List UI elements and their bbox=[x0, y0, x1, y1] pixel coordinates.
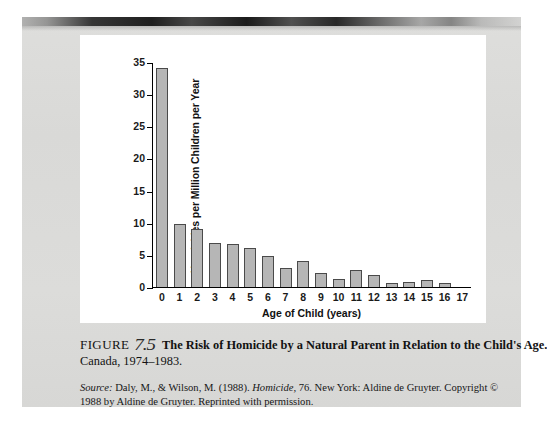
bar-age-16 bbox=[439, 283, 451, 287]
bar-age-15 bbox=[421, 280, 433, 287]
bar-slot-age-10: 10 bbox=[330, 62, 348, 287]
x-tick-label-2: 2 bbox=[194, 291, 200, 303]
bar-slot-age-4: 4 bbox=[224, 62, 242, 287]
y-tick-label: 15 bbox=[133, 185, 145, 197]
bar-age-7 bbox=[280, 268, 292, 287]
x-axis-line bbox=[152, 287, 471, 288]
x-tick-label-0: 0 bbox=[159, 291, 165, 303]
y-tick-label: 20 bbox=[133, 152, 145, 164]
bar-slot-age-11: 11 bbox=[347, 62, 365, 287]
x-tick-label-16: 16 bbox=[439, 291, 451, 303]
y-tick-label: 30 bbox=[133, 88, 145, 100]
y-tick-label: 0 bbox=[139, 281, 145, 293]
bar-slot-age-5: 5 bbox=[241, 62, 259, 287]
bar-age-8 bbox=[297, 261, 309, 287]
x-tick-label-15: 15 bbox=[421, 291, 433, 303]
bar-slot-age-9: 9 bbox=[312, 62, 330, 287]
bar-age-10 bbox=[333, 279, 345, 287]
bar-age-6 bbox=[262, 256, 274, 287]
x-tick-label-13: 13 bbox=[386, 291, 398, 303]
figure-title: The Risk of Homicide by a Natural Parent… bbox=[162, 338, 547, 352]
bar-slot-age-15: 15 bbox=[418, 62, 436, 287]
bar-age-9 bbox=[315, 273, 327, 287]
y-tick-label: 35 bbox=[133, 56, 145, 68]
figure-panel: Homicides per Million Children per Year … bbox=[80, 35, 486, 323]
bar-slot-age-17: 17 bbox=[453, 62, 471, 287]
x-tick-label-10: 10 bbox=[333, 291, 345, 303]
bar-slot-age-8: 8 bbox=[294, 62, 312, 287]
bar-age-14 bbox=[403, 282, 415, 287]
bar-slot-age-16: 16 bbox=[436, 62, 454, 287]
source-text-a: Daly, M., & Wilson, M. (1988). bbox=[113, 382, 253, 393]
bar-slot-age-6: 6 bbox=[259, 62, 277, 287]
scanned-page-block: Homicides per Million Children per Year … bbox=[22, 17, 521, 407]
y-tick-label: 5 bbox=[139, 249, 145, 261]
bar-age-3 bbox=[209, 243, 221, 287]
y-tick-mark bbox=[147, 288, 152, 289]
x-tick-label-14: 14 bbox=[403, 291, 415, 303]
y-tick-mark bbox=[147, 63, 152, 64]
bar-slot-age-12: 12 bbox=[365, 62, 383, 287]
bar-age-0 bbox=[156, 68, 168, 287]
bar-age-12 bbox=[368, 275, 380, 287]
y-tick-mark bbox=[147, 224, 152, 225]
x-tick-label-1: 1 bbox=[177, 291, 183, 303]
y-tick-mark bbox=[147, 256, 152, 257]
figure-label: FIGURE bbox=[80, 337, 129, 352]
x-axis-title: Age of Child (years) bbox=[152, 307, 471, 319]
y-tick-label: 10 bbox=[133, 217, 145, 229]
x-tick-label-8: 8 bbox=[300, 291, 306, 303]
bar-age-5 bbox=[244, 248, 256, 287]
caption-line-primary: FIGURE7.5The Risk of Homicide by a Natur… bbox=[80, 335, 520, 353]
y-tick-mark bbox=[147, 127, 152, 128]
scan-artifact-band bbox=[22, 17, 521, 26]
bar-age-13 bbox=[386, 283, 398, 288]
bar-age-11 bbox=[350, 270, 362, 287]
x-tick-label-6: 6 bbox=[265, 291, 271, 303]
bar-slot-age-7: 7 bbox=[277, 62, 295, 287]
x-tick-label-3: 3 bbox=[212, 291, 218, 303]
source-italic-title: Homicide, bbox=[252, 382, 296, 393]
y-tick-mark bbox=[147, 159, 152, 160]
bar-slot-age-13: 13 bbox=[383, 62, 401, 287]
y-tick-mark bbox=[147, 95, 152, 96]
x-tick-label-4: 4 bbox=[230, 291, 236, 303]
figure-caption: FIGURE7.5The Risk of Homicide by a Natur… bbox=[80, 335, 520, 369]
figure-subtitle: Canada, 1974–1983. bbox=[80, 354, 520, 369]
bar-age-1 bbox=[174, 224, 186, 287]
y-tick-mark bbox=[147, 192, 152, 193]
source-note: Source: Daly, M., & Wilson, M. (1988). H… bbox=[80, 381, 518, 408]
bar-series: 01234567891011121314151617 bbox=[153, 62, 471, 287]
x-tick-label-7: 7 bbox=[283, 291, 289, 303]
bar-slot-age-2: 2 bbox=[188, 62, 206, 287]
scan-artifact-gradient bbox=[22, 26, 521, 31]
x-tick-label-17: 17 bbox=[456, 291, 468, 303]
x-tick-label-9: 9 bbox=[318, 291, 324, 303]
bar-slot-age-14: 14 bbox=[400, 62, 418, 287]
source-prefix: Source: bbox=[80, 382, 113, 393]
x-tick-label-11: 11 bbox=[351, 291, 362, 303]
bar-chart: Homicides per Million Children per Year … bbox=[152, 63, 464, 288]
bar-age-4 bbox=[227, 244, 239, 287]
figure-number: 7.5 bbox=[134, 338, 155, 352]
bar-slot-age-3: 3 bbox=[206, 62, 224, 287]
bar-slot-age-0: 0 bbox=[153, 62, 171, 287]
bar-slot-age-1: 1 bbox=[171, 62, 189, 287]
x-tick-label-12: 12 bbox=[368, 291, 380, 303]
bar-age-2 bbox=[191, 229, 203, 287]
x-tick-label-5: 5 bbox=[247, 291, 253, 303]
y-tick-label: 25 bbox=[133, 120, 145, 132]
